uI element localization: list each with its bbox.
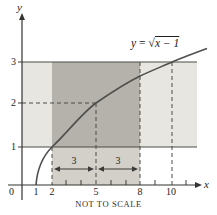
x-tick-label-8: 8 — [132, 187, 148, 197]
origin-label: 0 — [9, 187, 14, 197]
x-tick-label-10: 10 — [163, 187, 179, 197]
x-tick-label-5: 5 — [88, 187, 104, 197]
segment-length-label-right: 3 — [112, 156, 124, 166]
function-graph-figure: y = √x − 1 y x 0 1 2 5 8 10 3 2 1 3 3 NO… — [0, 0, 217, 215]
y-tick-label-1: 1 — [0, 142, 16, 152]
equation-radicand: x − 1 — [155, 37, 179, 49]
y-tick-label-2: 2 — [0, 98, 16, 108]
radical-sign: √ — [148, 36, 155, 50]
not-to-scale-note: NOT TO SCALE — [0, 199, 217, 209]
y-axis-label: y — [17, 2, 22, 13]
y-tick-label-3: 3 — [0, 57, 16, 67]
plot-canvas — [0, 0, 217, 215]
curve-equation: y = √x − 1 — [131, 37, 179, 50]
x-tick-label-2: 2 — [44, 187, 60, 197]
x-tick-label-1: 1 — [28, 187, 44, 197]
x-axis-label: x — [204, 179, 209, 190]
x-axis-arrowhead — [195, 182, 202, 188]
equation-equals: = — [136, 37, 148, 49]
segment-length-label-left: 3 — [68, 156, 80, 166]
y-axis-arrowhead — [19, 13, 25, 20]
